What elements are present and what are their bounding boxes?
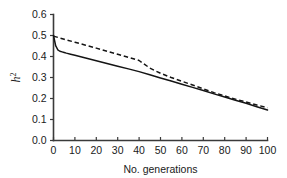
x-tick-label: 30 <box>112 144 124 156</box>
x-tick-label: 70 <box>197 144 209 156</box>
x-tick-label: 50 <box>155 144 167 156</box>
x-tick-label: 100 <box>259 144 277 156</box>
x-tick-label: 10 <box>69 144 81 156</box>
x-tick-label: 20 <box>90 144 102 156</box>
y-tick-label: 0.6 <box>32 8 47 20</box>
y-tick-label: 0.4 <box>32 50 47 62</box>
x-axis-title: No. generations <box>123 163 197 175</box>
y-tick-label: 0.5 <box>32 29 47 41</box>
x-tick-label: 90 <box>240 144 252 156</box>
chart-figure: 0.00.10.20.30.40.50.6 010203040506070809… <box>0 0 287 178</box>
y-tick-label: 0.3 <box>32 71 47 83</box>
x-tick-label: 80 <box>219 144 231 156</box>
x-tick-label: 40 <box>133 144 145 156</box>
x-tick-label: 60 <box>176 144 188 156</box>
y-tick-label: 0.0 <box>32 134 47 146</box>
y-tick-label: 0.1 <box>32 113 47 125</box>
y-tick-label: 0.2 <box>32 92 47 104</box>
x-tick-label: 0 <box>51 144 57 156</box>
line-chart: 0.00.10.20.30.40.50.6 010203040506070809… <box>0 0 287 178</box>
